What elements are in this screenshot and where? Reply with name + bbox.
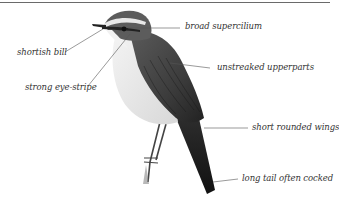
label-short-rounded-wings: short rounded wings <box>252 122 339 132</box>
legs <box>144 122 166 182</box>
label-broad-supercilium: broad supercilium <box>185 21 262 31</box>
bill <box>92 24 106 28</box>
tail <box>176 114 215 194</box>
label-unstreaked-upperparts: unstreaked upperparts <box>217 62 314 72</box>
label-shortish-bill: shortish bill <box>17 47 67 57</box>
label-strong-eye-stripe: strong eye-stripe <box>25 82 97 92</box>
eye <box>122 27 127 32</box>
label-long-tail: long tail often cocked <box>242 173 333 183</box>
